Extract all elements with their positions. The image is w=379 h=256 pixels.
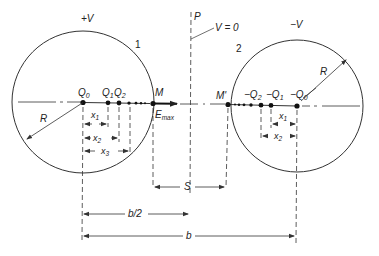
charge-neg-q2-label: −Q2 xyxy=(244,89,262,101)
half-separation-label: b/2 xyxy=(128,208,142,219)
sphere-1-potential-label: +V xyxy=(81,13,95,24)
charge-q2-label: Q2 xyxy=(114,87,126,99)
sphere-1-distance-arrows xyxy=(85,124,128,151)
sphere-1-number-label: 1 xyxy=(135,39,141,50)
sphere-2-distance-x2-label: x2 xyxy=(273,131,283,142)
sphere-2-distance-x1-label: x1 xyxy=(278,111,288,122)
plane-potential-label: V = 0 xyxy=(215,22,239,33)
charge-q2-dot xyxy=(117,101,122,106)
sphere-1-radius-label: R xyxy=(40,113,47,124)
sphere-2-number-label: 2 xyxy=(236,43,242,54)
gap-s-label: S xyxy=(184,181,191,192)
plane-p-label: P xyxy=(194,11,201,22)
charge-neg-q1-dot xyxy=(269,103,274,108)
charge-neg-q0-label: −Q0 xyxy=(290,89,308,101)
charge-q0-label: Q0 xyxy=(78,87,90,99)
central-axis xyxy=(18,102,360,106)
point-m-prime-dot xyxy=(225,102,230,107)
sphere-1-radius-arrow xyxy=(27,103,83,140)
distance-x2-label: x2 xyxy=(92,133,102,144)
charge-neg-q1-label: −Q1 xyxy=(266,89,284,101)
sphere-2-radius-label: R xyxy=(320,66,327,77)
point-m-prime-label: M' xyxy=(216,90,227,101)
two-sphere-image-charge-diagram: +V 1 R Q0 Q1 Q2 M Emax x1 x2 x3 P V = 0 … xyxy=(0,0,379,256)
charge-neg-q0-dot xyxy=(294,103,299,108)
sphere-2-potential-label: −V xyxy=(290,19,304,30)
v-zero-leader-line xyxy=(191,28,214,39)
distance-x3-label: x3 xyxy=(100,146,110,157)
point-m-label: M xyxy=(155,87,164,98)
neg-q0-leader-line xyxy=(303,88,316,98)
dimension-extension-lines xyxy=(82,107,297,243)
plane-p-dashed-line xyxy=(190,12,191,196)
e-max-label: Emax xyxy=(155,109,175,121)
charge-q1-label: Q1 xyxy=(102,87,114,99)
separation-b-label: b xyxy=(186,230,192,241)
charge-neg-q2-dot xyxy=(259,103,264,108)
distance-x1-label: x1 xyxy=(90,110,100,121)
charge-q1-dot xyxy=(106,100,111,105)
spacing-dimension-arrows xyxy=(84,187,294,236)
